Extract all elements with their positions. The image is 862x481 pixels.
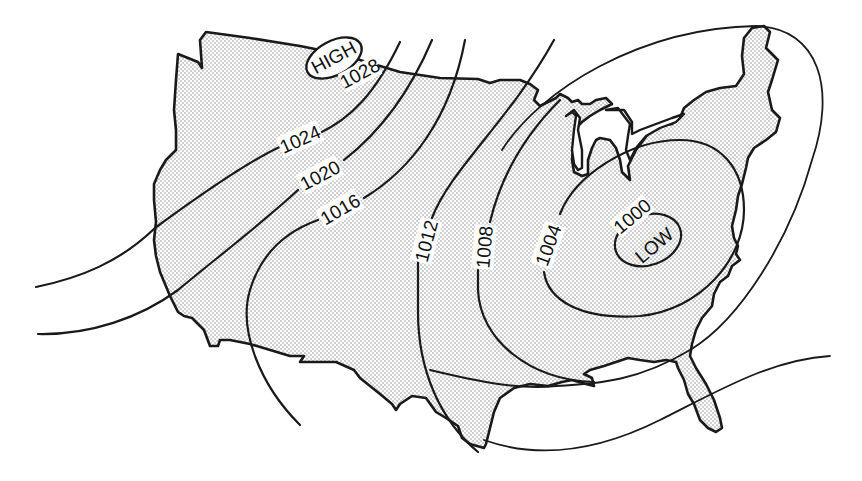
isobar-label-1008: 1008 — [472, 225, 497, 269]
weather-map: HIGH 1028 1024 1020 1016 1012 1008 1004 … — [0, 0, 862, 481]
us-landmass — [154, 26, 780, 448]
